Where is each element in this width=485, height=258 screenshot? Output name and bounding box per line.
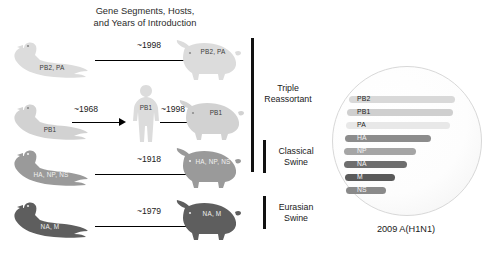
gene-segment-label: NA [357,160,367,167]
gene-segment-label: PA [357,121,366,128]
duck-silhouette: HA, NP, NS [6,146,92,192]
gene-segment-label: M [357,173,363,180]
figure-title: Gene Segments, Hosts, and Years of Intro… [62,6,228,29]
human-silhouette: PB1 [126,82,166,144]
gene-segment-bar [344,161,407,168]
year-label: ~1968 [74,104,98,114]
transmission-row-pb1: PB1 ~1968 PB1 ~1998 PB1 [0,88,250,140]
transmission-row-na-m: NA, M ~1979 NA, M [0,194,250,246]
bracket-triple-reassortant [251,38,254,172]
gene-segment-label: PB1 [357,108,370,115]
bracket-classical-swine [263,140,266,173]
gene-segment-bar [345,174,395,181]
year-label: ~1979 [137,206,161,216]
duck-silhouette: NA, M [6,198,92,244]
group-label-triple-reassortant: Triple Reassortant [258,83,318,104]
gene-segment-bar [344,148,416,155]
year-label: ~1998 [137,40,161,50]
group-label-classical-swine: Classical Swine [270,146,322,167]
gene-segment-label: PB2 [357,95,370,102]
gene-segment-label: NS [357,186,367,193]
pig-silhouette: HA, NP, NS [165,144,245,190]
bracket-eurasian-swine [263,196,266,229]
year-label: ~1918 [137,154,161,164]
duck-silhouette: PB2, PA [6,38,92,84]
pig-silhouette: NA, M [165,196,245,242]
transmission-arrow-first [72,117,128,129]
pig-silhouette: PB1 [168,96,248,142]
virion-caption: 2009 A(H1N1) [332,224,480,234]
transmission-row-pb2-pa: PB2, PA ~1998 PB2, PA [0,36,250,88]
group-label-eurasian-swine: Eurasian Swine [270,202,322,223]
influenza-reassortment-diagram: Gene Segments, Hosts, and Years of Intro… [0,0,485,258]
transmission-row-ha-np-ns: HA, NP, NS ~1918 HA, NP, NS [0,140,250,192]
gene-segment-label: NP [357,147,367,154]
virion-particle: PB2 PB1 PA HA NP NA M NS [332,66,482,216]
gene-segment-label: HA [357,134,367,141]
pig-silhouette: PB2, PA [165,36,245,82]
